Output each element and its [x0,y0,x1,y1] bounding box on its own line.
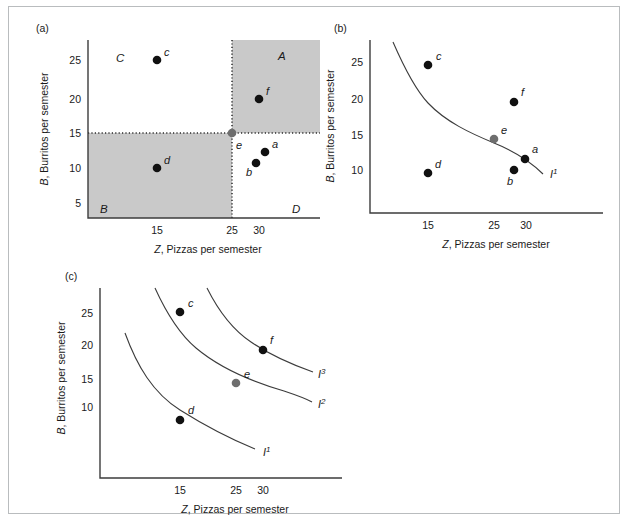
panel-c-x-axis-label: Z, Pizzas per semester [180,503,289,515]
panel-c-data-point-d [176,416,185,425]
panel-c-data-point-c [176,308,185,317]
panel-b-data-point-label-c: c [436,50,442,62]
panel-b-x-tick-30: 30 [520,219,532,231]
panel-b-data-point-d [424,169,433,178]
data-point-a [261,148,270,157]
panel-b-data-point-f [510,98,519,107]
y-tick-20: 20 [69,93,81,105]
x-tick-30: 30 [253,224,265,236]
indifference-curve-c-i3 [207,288,313,372]
panel-b-y-tick-10: 10 [351,164,363,176]
panel-c-y-tick-10: 10 [81,401,93,413]
panel-c-data-point-label-c: c [188,297,194,309]
y-tick-5: 5 [75,197,81,209]
data-point-c [153,56,162,65]
x-tick-15: 15 [151,224,163,236]
data-point-d [153,164,162,173]
panel-b-x-tick-25: 25 [488,219,500,231]
panel-c-data-point-label-e: e [244,368,250,380]
panel-a-label: (a) [36,22,49,34]
panel-a: (a) 25 20 15 10 5 15 25 30 Z, Pizzas per… [20,10,330,260]
panel-c-data-point-f [259,346,268,355]
data-point-label-d: d [164,154,171,166]
panel-c-x-tick-15: 15 [174,484,186,496]
panel-c-y-axis-label: B, Burritos per semester [55,321,67,435]
panel-c-data-point-label-d: d [188,404,195,416]
panel-c-curve-label-i2: I2 [318,397,326,410]
panel-a-x-axis-label: Z, Pizzas per semester [153,243,262,255]
y-tick-25: 25 [69,54,81,66]
data-point-f [255,95,264,104]
quadrant-label-a: A [277,50,286,62]
figure-container: (a) 25 20 15 10 5 15 25 30 Z, Pizzas per… [0,0,634,529]
quadrant-b-shade [88,133,232,218]
indifference-curve-i1 [393,42,543,174]
panel-b-y-axis-label: B, Burritos per semester [324,69,336,183]
quadrant-label-b: B [100,203,108,215]
data-point-label-c: c [164,46,170,58]
panel-c: (c) 25 20 15 10 15 25 30 Z, Pizzas per s… [55,258,365,523]
panel-b-data-point-label-f: f [521,86,525,98]
panel-b-data-point-a [521,155,530,164]
panel-c-data-point-label-f: f [270,334,274,346]
panel-b-data-point-b [510,166,519,175]
panel-c-curve-label-i3: I3 [318,367,326,380]
indifference-curve-c-i1 [125,333,255,449]
panel-b: (b) 25 20 15 10 15 25 30 Z, Pizzas per s… [318,10,618,260]
panel-c-curve-label-i1: I1 [263,445,271,458]
panel-b-data-point-e [490,135,499,144]
panel-b-axes [370,40,603,213]
data-point-label-a: a [272,138,278,150]
data-point-b [252,159,261,168]
panel-b-data-point-label-d: d [435,158,442,170]
panel-c-data-point-e [232,379,241,388]
panel-a-y-axis-label: B, Burritos per semester [38,72,50,186]
quadrant-label-d: D [292,203,300,215]
panel-b-y-tick-20: 20 [351,93,363,105]
x-tick-25: 25 [226,224,238,236]
data-point-label-b: b [246,166,252,178]
panel-c-label: (c) [65,270,77,282]
panel-b-label: (b) [334,22,347,34]
curve-label-i1: I1 [550,167,558,180]
panel-b-y-tick-15: 15 [351,129,363,141]
panel-b-y-tick-25: 25 [351,56,363,68]
panel-b-data-point-label-b: b [507,175,513,187]
data-point-e [228,129,237,138]
panel-c-y-tick-15: 15 [81,373,93,385]
panel-c-axes [100,288,342,478]
data-point-label-e: e [236,139,242,151]
y-tick-10: 10 [69,162,81,174]
y-tick-15: 15 [69,127,81,139]
panel-c-y-tick-20: 20 [81,339,93,351]
panel-c-x-tick-25: 25 [230,484,242,496]
quadrant-label-c: C [116,52,125,64]
panel-c-y-tick-25: 25 [81,307,93,319]
panel-b-x-tick-15: 15 [422,219,434,231]
quadrant-a-shade [232,40,320,133]
panel-b-data-point-label-a: a [532,143,538,155]
panel-c-x-tick-30: 30 [257,484,269,496]
panel-b-x-axis-label: Z, Pizzas per semester [441,238,550,250]
panel-b-data-point-c [424,61,433,70]
panel-b-data-point-label-e: e [501,124,507,136]
